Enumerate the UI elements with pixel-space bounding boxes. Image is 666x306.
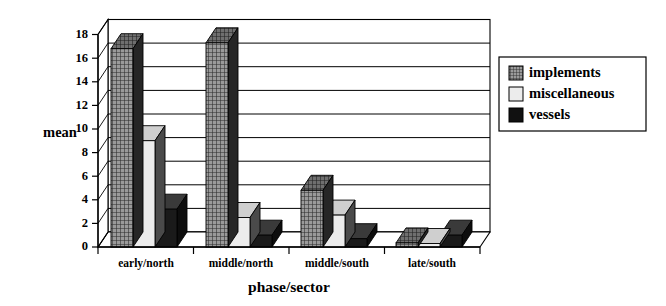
y-tick-label-2: 2 <box>82 216 88 230</box>
chart-canvas: 0 2 4 6 8 10 12 14 16 18 mean <box>0 0 666 306</box>
legend-item-vessels[interactable]: vessels <box>509 106 570 122</box>
legend-label-vessels: vessels <box>529 106 570 122</box>
x-tick-label-3: late/south <box>408 257 457 269</box>
y-tick-label-0: 0 <box>82 239 88 253</box>
plot-left-wall <box>98 20 108 248</box>
legend: implements miscellaneous vessels <box>499 57 646 131</box>
legend-swatch-miscellaneous <box>509 87 523 101</box>
y-tick-label-14: 14 <box>76 74 89 88</box>
legend-label-miscellaneous: miscellaneous <box>529 85 615 101</box>
y-tick-label-4: 4 <box>82 192 89 206</box>
bar-implements-1 <box>206 28 238 247</box>
bar-chart: 0 2 4 6 8 10 12 14 16 18 mean <box>0 0 666 306</box>
x-tick-label-2: middle/south <box>305 257 370 269</box>
x-tick-label-0: early/north <box>118 257 174 270</box>
bar-implements-0 <box>111 34 143 247</box>
y-axis-title: mean <box>43 124 77 140</box>
y-tick-label-8: 8 <box>82 145 88 159</box>
y-tick-label-16: 16 <box>76 51 89 65</box>
x-axis-title: phase/sector <box>248 278 330 295</box>
y-tick-label-10: 10 <box>76 121 89 135</box>
bar-implements-2 <box>301 175 333 247</box>
y-tick-label-12: 12 <box>76 98 89 112</box>
y-tick-label-6: 6 <box>82 169 88 183</box>
y-tick-label-18: 18 <box>76 27 89 41</box>
legend-label-implements: implements <box>529 64 601 80</box>
legend-item-implements[interactable]: implements <box>509 64 601 80</box>
legend-swatch-implements <box>509 66 523 80</box>
legend-swatch-vessels <box>509 108 523 122</box>
x-tick-label-1: middle/north <box>209 257 274 269</box>
